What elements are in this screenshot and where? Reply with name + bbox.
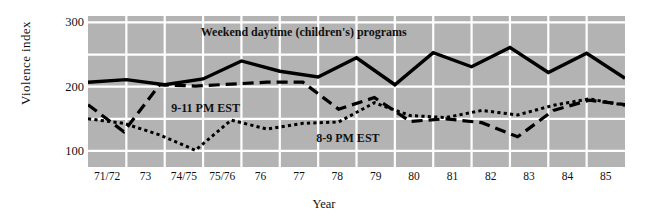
annotation-label-1: 9-11 PM EST <box>171 101 240 116</box>
x-tick-label: 84 <box>562 170 574 182</box>
y-axis-title: Violence index <box>18 0 34 133</box>
x-tick-label: 75/76 <box>209 170 235 182</box>
x-tick-label: 77 <box>293 170 305 182</box>
y-tick-label: 300 <box>44 15 84 30</box>
x-tick-label: 74/75 <box>171 170 197 182</box>
x-tick-label: 83 <box>523 170 535 182</box>
x-tick-label: 73 <box>140 170 152 182</box>
x-tick-label: 82 <box>485 170 497 182</box>
y-tick-label: 200 <box>44 79 84 94</box>
y-tick-label: 100 <box>44 143 84 158</box>
x-tick-label: 80 <box>408 170 420 182</box>
annotation-label-0: Weekend daytime (children's) programs <box>201 25 407 40</box>
violence-index-chart: Violence index 100200300 71/727374/7575/… <box>0 0 648 220</box>
x-tick-label: 71/72 <box>94 170 120 182</box>
x-tick-label: 76 <box>255 170 267 182</box>
x-axis-title: Year <box>0 197 648 212</box>
x-tick-label: 78 <box>332 170 344 182</box>
x-tick-label: 81 <box>447 170 459 182</box>
x-tick-label: 79 <box>370 170 382 182</box>
x-tick-label: 85 <box>600 170 612 182</box>
annotation-label-2: 8-9 PM EST <box>316 131 379 146</box>
